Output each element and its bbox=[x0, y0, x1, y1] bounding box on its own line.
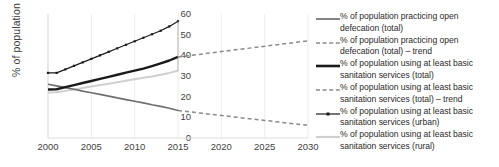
legend-label-2: % of population using at least basic san… bbox=[340, 58, 499, 81]
series-marker-4-1 bbox=[56, 72, 58, 74]
series-line-5 bbox=[48, 71, 178, 93]
chart-legend: % of population practicing open defecati… bbox=[316, 11, 499, 153]
series-marker-4-3 bbox=[73, 65, 75, 67]
series-marker-4-14 bbox=[168, 25, 170, 27]
series-marker-4-10 bbox=[134, 40, 136, 42]
legend-label-0: % of population practicing open defecati… bbox=[340, 11, 499, 34]
legend-swatch-icon-3 bbox=[316, 83, 340, 97]
series-marker-4-12 bbox=[151, 33, 153, 35]
series-1 bbox=[178, 111, 308, 126]
legend-marker-4 bbox=[327, 112, 330, 115]
legend-item-4[interactable]: % of population using at least basic san… bbox=[316, 106, 499, 129]
series-marker-4-2 bbox=[64, 68, 66, 70]
x-axis-tick-2020: 2020 bbox=[199, 142, 243, 152]
legend-item-3[interactable]: % of population using at least basic san… bbox=[316, 82, 499, 105]
legend-swatch-icon-5 bbox=[316, 130, 340, 144]
legend-swatch-icon-1 bbox=[316, 36, 340, 50]
x-axis-tick-2025: 2025 bbox=[243, 142, 287, 152]
series-marker-4-0 bbox=[47, 72, 49, 74]
x-axis-tick-2000: 2000 bbox=[26, 142, 70, 152]
series-0 bbox=[48, 84, 178, 110]
legend-item-2[interactable]: % of population using at least basic san… bbox=[316, 58, 499, 81]
legend-label-3: % of population using at least basic san… bbox=[340, 82, 499, 105]
series-marker-4-4 bbox=[82, 61, 84, 63]
legend-item-5[interactable]: % of population using at least basic san… bbox=[316, 129, 499, 152]
chart-figure: % of population 6050403020100 2000200520… bbox=[0, 0, 499, 167]
plot-area bbox=[48, 14, 308, 138]
legend-swatch-icon-0 bbox=[316, 12, 340, 26]
series-2 bbox=[48, 57, 178, 89]
legend-item-1[interactable]: % of population practicing open defecati… bbox=[316, 35, 499, 58]
series-5 bbox=[48, 71, 178, 93]
series-line-3 bbox=[178, 41, 308, 57]
plot-svg bbox=[48, 14, 308, 138]
legend-swatch-icon-4 bbox=[316, 107, 340, 121]
legend-label-1: % of population practicing open defecati… bbox=[340, 35, 499, 58]
legend-item-0[interactable]: % of population practicing open defecati… bbox=[316, 11, 499, 34]
series-4 bbox=[47, 20, 179, 74]
series-marker-4-7 bbox=[108, 51, 110, 53]
series-line-0 bbox=[48, 84, 178, 110]
series-line-2 bbox=[48, 57, 178, 89]
legend-label-5: % of population using at least basic san… bbox=[340, 129, 499, 152]
x-axis-tick-2010: 2010 bbox=[113, 142, 157, 152]
series-marker-4-5 bbox=[90, 58, 92, 60]
legend-label-4: % of population using at least basic san… bbox=[340, 106, 499, 129]
series-marker-4-9 bbox=[125, 44, 127, 46]
legend-swatch-icon-2 bbox=[316, 59, 340, 73]
y-axis-title: % of population bbox=[10, 0, 22, 100]
series-line-1 bbox=[178, 111, 308, 126]
series-marker-4-13 bbox=[160, 30, 162, 32]
x-axis-tick-2005: 2005 bbox=[69, 142, 113, 152]
x-axis-tick-2015: 2015 bbox=[156, 142, 200, 152]
series-marker-4-6 bbox=[99, 54, 101, 56]
series-marker-4-8 bbox=[116, 47, 118, 49]
series-3 bbox=[178, 41, 308, 57]
series-marker-4-11 bbox=[142, 37, 144, 39]
